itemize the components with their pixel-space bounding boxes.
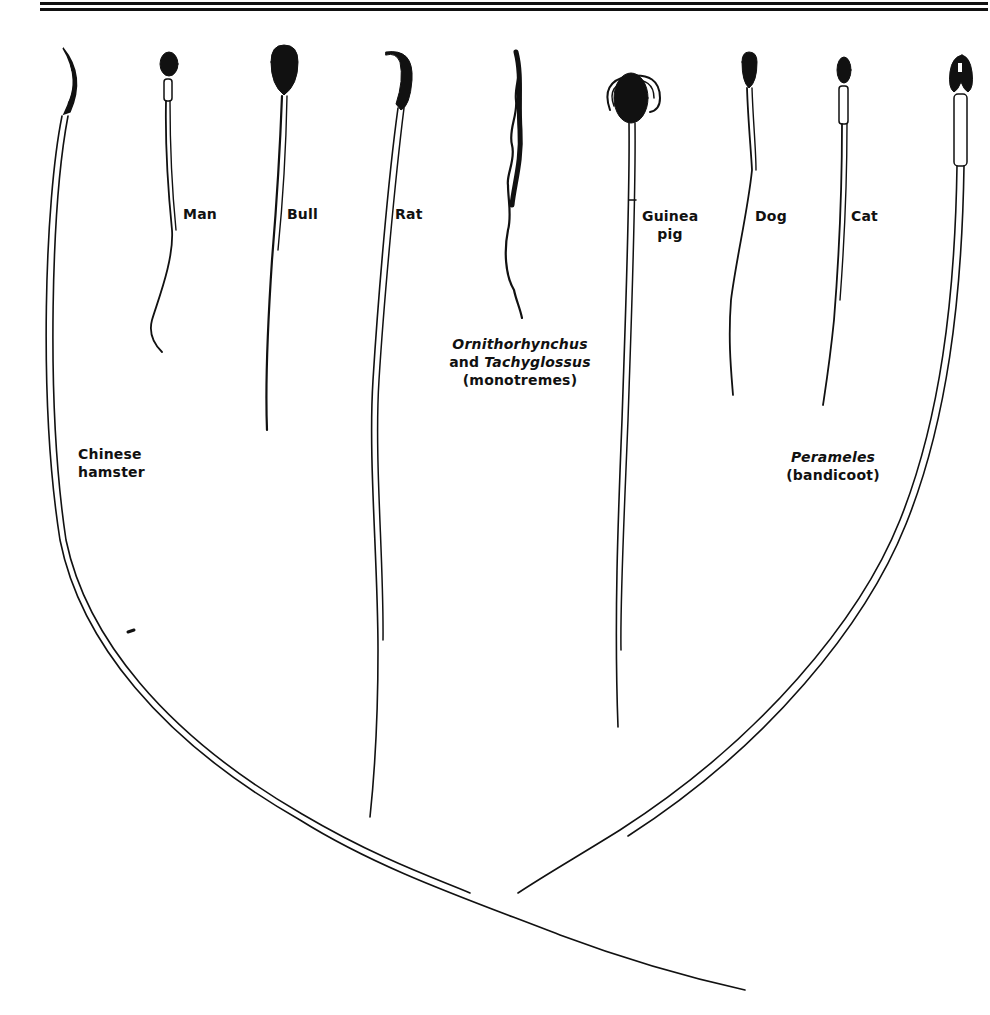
label-dog: Dog <box>755 207 787 225</box>
man-sperm <box>151 52 178 352</box>
label-line: hamster <box>78 463 145 481</box>
label-line: and Tachyglossus <box>440 353 600 371</box>
label-man: Man <box>183 205 217 223</box>
label-text: Tachyglossus <box>484 354 591 370</box>
label-perameles: Perameles (bandicoot) <box>783 448 883 484</box>
sperm-diagram <box>0 0 990 1015</box>
label-cat: Cat <box>851 207 878 225</box>
label-line: Chinese <box>78 445 145 463</box>
label-text: and <box>449 354 484 370</box>
label-line: (monotremes) <box>440 371 600 389</box>
label-monotremes: Ornithorhynchus and Tachyglossus (monotr… <box>440 335 600 389</box>
cat-sperm <box>823 57 851 405</box>
label-bull: Bull <box>287 205 318 223</box>
label-line: Ornithorhynchus <box>440 335 600 353</box>
label-guinea-pig: Guinea pig <box>642 207 698 243</box>
monotreme-sperm <box>506 52 522 318</box>
label-chinese-hamster: Chinese hamster <box>78 445 145 481</box>
label-line: pig <box>642 225 698 243</box>
dog-sperm <box>730 52 757 395</box>
rat-sperm <box>370 52 412 817</box>
label-line: Perameles <box>783 448 883 466</box>
bull-sperm <box>266 45 298 430</box>
label-line: Guinea <box>642 207 698 225</box>
label-rat: Rat <box>395 205 423 223</box>
guinea-pig-sperm <box>607 73 660 727</box>
perameles-sperm <box>518 55 973 893</box>
label-line: (bandicoot) <box>783 466 883 484</box>
